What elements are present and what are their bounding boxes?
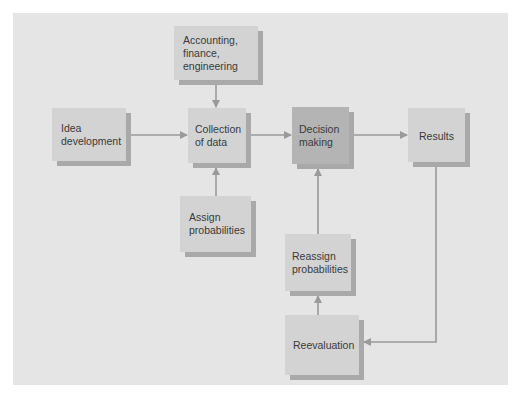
node-reassign-probabilities: Reassign probabilities bbox=[285, 234, 351, 291]
node-assign-probabilities: Assign probabilities bbox=[180, 196, 251, 252]
node-reevaluation: Reevaluation bbox=[285, 315, 359, 375]
node-label: Accounting, finance, engineering bbox=[183, 34, 238, 73]
node-collection-of-data: Collection of data bbox=[188, 108, 246, 163]
node-decision-making: Decision making bbox=[292, 107, 349, 164]
node-label: Reevaluation bbox=[293, 339, 354, 352]
connectors bbox=[0, 0, 517, 397]
node-accounting-finance-engineering: Accounting, finance, engineering bbox=[174, 26, 258, 80]
node-idea-development: Idea development bbox=[52, 108, 126, 161]
node-label: Decision making bbox=[299, 123, 339, 149]
node-results: Results bbox=[408, 108, 465, 162]
node-label: Assign probabilities bbox=[189, 211, 245, 237]
node-label: Reassign probabilities bbox=[292, 250, 348, 276]
edge-results-reevaluation bbox=[364, 167, 436, 342]
node-label: Results bbox=[419, 130, 454, 143]
node-label: Idea development bbox=[61, 122, 121, 148]
node-label: Collection of data bbox=[195, 123, 241, 149]
